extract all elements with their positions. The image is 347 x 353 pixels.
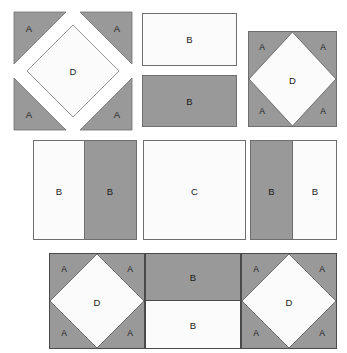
- corner-triangle-bottom-left-label: A: [26, 109, 33, 120]
- split-half-right-label: B: [312, 186, 318, 197]
- center-diamond-label: D: [70, 66, 77, 77]
- corner-triangle-bottom-right-label: A: [319, 328, 325, 338]
- split-half-left-label: B: [56, 186, 62, 197]
- unit-rectangle-dark: B: [142, 75, 237, 127]
- unit-plain-square-center: C: [143, 140, 246, 240]
- unit-rectangle-light: B: [142, 13, 237, 66]
- center-diamond-label: D: [286, 297, 293, 308]
- corner-triangle-top-right-label: A: [320, 42, 326, 52]
- corner-triangle-top-left-label: A: [61, 264, 67, 274]
- quilt-piecing-diagram: A A A A D B B: [0, 0, 347, 353]
- rectangle-dark-label: B: [186, 96, 192, 107]
- corner-triangle-bottom-right-label: A: [127, 328, 133, 338]
- corner-triangle-top-right-label: A: [319, 264, 325, 274]
- center-diamond-label: D: [289, 75, 296, 86]
- unit-split-square-dark-light: B B: [250, 140, 337, 240]
- corner-triangle-top-left-label: A: [26, 23, 33, 34]
- split-half-left-label: B: [268, 186, 274, 197]
- plain-square-label: C: [191, 186, 198, 197]
- rectangle-light-label: B: [186, 34, 192, 45]
- corner-triangle-bottom-right-label: A: [114, 109, 121, 120]
- unit-split-square-dark-top-light-bottom: B B: [145, 253, 241, 349]
- unit-exploded-square-in-square: A A A A D: [14, 12, 132, 130]
- split-half-bottom-label: B: [190, 320, 196, 331]
- corner-triangle-bottom-left-label: A: [61, 328, 67, 338]
- corner-triangle-bottom-left-label: A: [259, 106, 265, 116]
- unit-assembled-square-in-square-top: A A A A D: [248, 31, 337, 127]
- unit-split-square-light-dark: B B: [33, 140, 137, 240]
- corner-triangle-top-right-label: A: [127, 264, 133, 274]
- corner-triangle-top-left-label: A: [253, 264, 259, 274]
- corner-triangle-top-right-label: A: [114, 23, 121, 34]
- corner-triangle-top-left-label: A: [259, 42, 265, 52]
- unit-assembled-square-in-square-bottom-left: A A A A D: [49, 253, 145, 349]
- corner-triangle-bottom-right-label: A: [320, 106, 326, 116]
- corner-triangle-bottom-left-label: A: [253, 328, 259, 338]
- split-half-right-label: B: [107, 186, 113, 197]
- split-half-top-label: B: [190, 272, 196, 283]
- unit-assembled-square-in-square-bottom-right: A A A A D: [241, 253, 337, 349]
- center-diamond-label: D: [94, 297, 101, 308]
